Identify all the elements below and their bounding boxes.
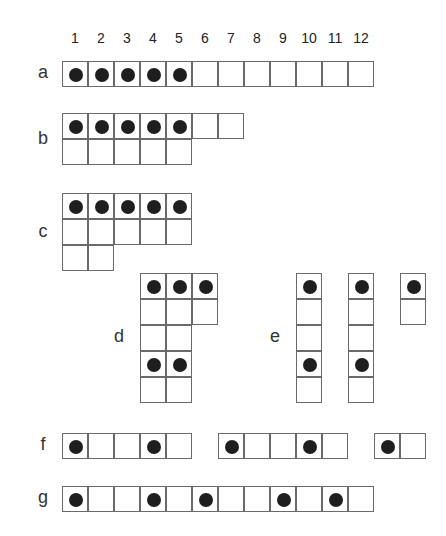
filled-cell [62, 486, 88, 512]
filled-cell [166, 351, 192, 377]
dot-icon [147, 493, 161, 507]
filled-cell [88, 113, 114, 139]
filled-cell [62, 433, 88, 459]
dot-icon [381, 440, 395, 454]
column-number: 6 [192, 30, 218, 46]
column-number: 7 [218, 30, 244, 46]
dot-icon [69, 120, 83, 134]
filled-cell [140, 273, 166, 299]
filled-cell [400, 273, 426, 299]
empty-cell [244, 433, 270, 459]
filled-cell [140, 486, 166, 512]
column-number: 12 [348, 30, 374, 46]
empty-cell [218, 113, 244, 139]
filled-cell [140, 193, 166, 219]
empty-cell [400, 299, 426, 325]
empty-cell [296, 486, 322, 512]
column-number: 4 [140, 30, 166, 46]
filled-cell [270, 486, 296, 512]
empty-cell [140, 219, 166, 245]
empty-cell [348, 377, 374, 403]
empty-cell [192, 299, 218, 325]
empty-cell [114, 139, 140, 165]
dot-icon [173, 200, 187, 214]
dot-icon [147, 200, 161, 214]
dot-icon [225, 440, 239, 454]
dot-icon [69, 440, 83, 454]
empty-cell [62, 245, 88, 271]
filled-cell [166, 193, 192, 219]
grid-label-e: e [265, 326, 285, 347]
empty-cell [400, 433, 426, 459]
filled-cell [322, 486, 348, 512]
filled-cell [166, 273, 192, 299]
empty-cell [88, 486, 114, 512]
dot-icon [303, 440, 317, 454]
column-number: 2 [88, 30, 114, 46]
dot-icon [355, 280, 369, 294]
grid-label-a: a [33, 62, 53, 83]
filled-cell [192, 273, 218, 299]
dot-icon [69, 200, 83, 214]
empty-cell [322, 61, 348, 87]
dot-icon [121, 120, 135, 134]
dot-icon [147, 440, 161, 454]
empty-cell [140, 377, 166, 403]
grid-label-c: c [33, 221, 53, 242]
dot-icon [173, 120, 187, 134]
dot-icon [147, 68, 161, 82]
column-number: 9 [270, 30, 296, 46]
empty-cell [348, 299, 374, 325]
empty-cell [218, 61, 244, 87]
filled-cell [296, 273, 322, 299]
empty-cell [140, 299, 166, 325]
filled-cell [140, 433, 166, 459]
filled-cell [114, 61, 140, 87]
dot-icon [199, 280, 213, 294]
empty-cell [88, 245, 114, 271]
column-number: 5 [166, 30, 192, 46]
empty-cell [88, 139, 114, 165]
grid-label-d: d [109, 326, 129, 347]
empty-cell [348, 486, 374, 512]
filled-cell [88, 193, 114, 219]
filled-cell [114, 193, 140, 219]
filled-cell [140, 351, 166, 377]
dot-icon [69, 68, 83, 82]
empty-cell [270, 433, 296, 459]
grid-label-f: f [33, 434, 53, 455]
empty-cell [296, 61, 322, 87]
filled-cell [374, 433, 400, 459]
filled-cell [348, 273, 374, 299]
filled-cell [296, 351, 322, 377]
filled-cell [348, 351, 374, 377]
empty-cell [296, 299, 322, 325]
filled-cell [140, 113, 166, 139]
empty-cell [348, 325, 374, 351]
column-number: 10 [296, 30, 322, 46]
filled-cell [166, 113, 192, 139]
filled-cell [88, 61, 114, 87]
filled-cell [62, 113, 88, 139]
empty-cell [166, 433, 192, 459]
grid-label-g: g [33, 487, 53, 508]
empty-cell [166, 325, 192, 351]
dot-icon [95, 200, 109, 214]
column-number: 1 [62, 30, 88, 46]
dot-icon [329, 493, 343, 507]
empty-cell [114, 433, 140, 459]
grid-label-b: b [33, 128, 53, 149]
dot-icon [147, 280, 161, 294]
dot-icon [147, 120, 161, 134]
empty-cell [114, 486, 140, 512]
empty-cell [166, 377, 192, 403]
filled-cell [166, 61, 192, 87]
empty-cell [166, 299, 192, 325]
filled-cell [62, 61, 88, 87]
filled-cell [218, 433, 244, 459]
dot-icon [147, 358, 161, 372]
filled-cell [114, 113, 140, 139]
dot-icon [277, 493, 291, 507]
dot-icon [303, 280, 317, 294]
filled-cell [62, 193, 88, 219]
